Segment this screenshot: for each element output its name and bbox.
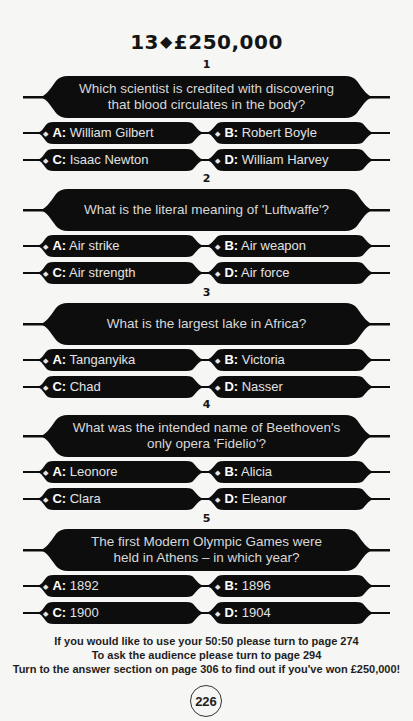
answer-option-c[interactable]: ◆C: Air strength [43,262,136,286]
answer-letter: C: [52,605,66,620]
diamond-icon: ◆ [160,32,173,51]
bullet-diamond-icon: ◆ [215,583,220,590]
answer-text: Air weapon [241,238,306,253]
answer-letter: A: [52,238,66,253]
answer-text: Air strength [69,265,135,280]
question-number: 3 [0,286,413,299]
bullet-diamond-icon: ◆ [43,583,48,590]
answer-option-d[interactable]: ◆D: Eleanor [215,488,287,512]
answer-text: William Harvey [242,152,329,167]
answer-row: ◆A: Leonore◆B: Alicia [0,460,413,484]
answer-option-d[interactable]: ◆D: Air force [215,262,289,286]
question-line: What is the literal meaning of 'Luftwaff… [84,202,329,218]
question-line: Which scientist is credited with discove… [79,81,334,97]
answer-letter: B: [224,352,238,367]
answer-text: William Gilbert [70,125,154,140]
answer-option-b[interactable]: ◆B: Robert Boyle [215,122,317,146]
answer-option-a[interactable]: ◆A: 1892 [43,575,99,599]
answer-option-a[interactable]: ◆A: William Gilbert [43,122,154,146]
question-number: 5 [0,512,413,525]
bullet-diamond-icon: ◆ [215,357,220,364]
ask-audience-instruction: To ask the audience please turn to page … [0,648,413,662]
bullet-diamond-icon: ◆ [43,243,48,250]
level-number: 13 [130,30,159,54]
answer-text: Eleanor [242,491,287,506]
answer-text: Alicia [241,464,272,479]
answer-letter: B: [224,125,238,140]
answer-row: ◆A: William Gilbert◆B: Robert Boyle [0,121,413,145]
bullet-diamond-icon: ◆ [215,469,220,476]
bullet-diamond-icon: ◆ [43,384,48,391]
answer-option-d[interactable]: ◆D: William Harvey [215,149,328,173]
answer-text: Robert Boyle [242,125,317,140]
answer-text: Air strike [69,238,120,253]
question-line: only opera 'Fidelio'? [147,436,266,452]
question-line: held in Athens – in which year? [113,550,299,566]
question-banner: Which scientist is credited with discove… [0,75,413,119]
answer-text: Air force [241,265,289,280]
question-number: 1 [0,58,413,71]
answer-section-instruction: Turn to the answer section on page 306 t… [0,662,413,676]
answer-option-d[interactable]: ◆D: 1904 [215,602,271,626]
answer-letter: D: [224,491,238,506]
bullet-diamond-icon: ◆ [215,243,220,250]
answer-row: ◆C: Isaac Newton◆D: William Harvey [0,148,413,172]
question-text: The first Modern Olympic Games wereheld … [70,532,343,568]
answer-letter: A: [52,578,66,593]
bullet-diamond-icon: ◆ [43,496,48,503]
answer-letter: D: [224,265,238,280]
answer-text: Tanganyika [70,352,136,367]
answer-option-d[interactable]: ◆D: Nasser [215,376,283,400]
answer-row: ◆C: Clara◆D: Eleanor [0,487,413,511]
answer-letter: B: [224,578,238,593]
answer-option-b[interactable]: ◆B: Victoria [215,349,285,373]
answer-option-a[interactable]: ◆A: Air strike [43,235,120,259]
answer-option-a[interactable]: ◆A: Tanganyika [43,349,135,373]
answer-option-c[interactable]: ◆C: Chad [43,376,101,400]
answer-text: Clara [70,491,101,506]
question-line: What was the intended name of Beethoven'… [73,420,341,436]
answer-letter: D: [224,605,238,620]
answer-row: ◆C: 1900◆D: 1904 [0,601,413,625]
question-text: What is the largest lake in Africa? [70,306,343,342]
answer-text: 1900 [70,605,99,620]
bullet-diamond-icon: ◆ [215,157,220,164]
answer-option-b[interactable]: ◆B: Air weapon [215,235,306,259]
prize-amount: £250,000 [174,30,283,54]
prize-level-title: 13◆£250,000 [0,30,413,54]
answer-text: 1904 [242,605,271,620]
bullet-diamond-icon: ◆ [43,610,48,617]
answer-letter: B: [224,238,238,253]
question-text: What is the literal meaning of 'Luftwaff… [70,192,343,228]
page-number-badge: 226 [190,685,222,717]
answer-option-c[interactable]: ◆C: Isaac Newton [43,149,149,173]
answer-letter: C: [52,379,66,394]
answer-option-a[interactable]: ◆A: Leonore [43,461,117,485]
bullet-diamond-icon: ◆ [43,469,48,476]
question-banner: What is the literal meaning of 'Luftwaff… [0,188,413,232]
answer-letter: C: [52,491,66,506]
answer-letter: D: [224,152,238,167]
answer-row: ◆C: Chad◆D: Nasser [0,375,413,399]
bullet-diamond-icon: ◆ [215,610,220,617]
bullet-diamond-icon: ◆ [215,130,220,137]
answer-letter: C: [52,152,66,167]
question-text: Which scientist is credited with discove… [70,79,343,115]
answer-option-b[interactable]: ◆B: 1896 [215,575,271,599]
answer-text: Chad [70,379,101,394]
lifeline-5050-instruction: If you would like to use your 50:50 plea… [0,634,413,648]
answer-option-c[interactable]: ◆C: Clara [43,488,101,512]
answer-option-c[interactable]: ◆C: 1900 [43,602,99,626]
question-banner: The first Modern Olympic Games wereheld … [0,528,413,572]
bullet-diamond-icon: ◆ [215,270,220,277]
page-number: 226 [195,694,217,709]
answer-row: ◆A: Air strike◆B: Air weapon [0,234,413,258]
answer-letter: B: [224,464,238,479]
bullet-diamond-icon: ◆ [215,496,220,503]
question-line: The first Modern Olympic Games were [91,534,322,550]
answer-option-b[interactable]: ◆B: Alicia [215,461,272,485]
answer-text: Victoria [242,352,285,367]
answer-letter: D: [224,379,238,394]
answer-text: 1896 [242,578,271,593]
question-banner: What is the largest lake in Africa? [0,302,413,346]
